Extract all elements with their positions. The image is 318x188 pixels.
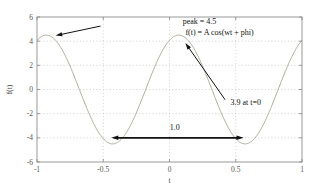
y-tick-label: 0 [29,85,33,94]
x-tick-label: -1 [34,165,40,174]
y-tick-label: 6 [29,13,33,22]
y-tick-label: 4 [29,37,33,46]
y-tick-label: -4 [27,133,33,142]
x-tick-label: 0 [168,165,172,174]
x-tick-label: 1 [300,165,304,174]
y-tick-label: 2 [29,61,33,70]
figure-background [0,0,318,188]
formula-annotation: f(t) = A cos(wt + phi) [185,28,254,37]
y-tick-label: -2 [27,109,33,118]
formula-annotation-text: f(t) = A cos(wt + phi) [185,28,254,37]
chart-figure: 6420-2-4-6-1-0.500.51 peak = 4.5f(t) = A… [0,0,318,188]
cosine-plot: 6420-2-4-6-1-0.500.51 peak = 4.5f(t) = A… [0,0,318,188]
y-axis-label: f(t) [5,84,14,94]
period-label: 1.0 [170,123,180,132]
value-at-zero-annotation-text: 3.9 at t=0 [230,98,261,107]
y-tick-label: -6 [27,158,33,167]
x-tick-label: 0.5 [231,165,241,174]
x-tick-label: -0.5 [97,165,109,174]
peak-annotation-text: peak = 4.5 [183,17,217,26]
